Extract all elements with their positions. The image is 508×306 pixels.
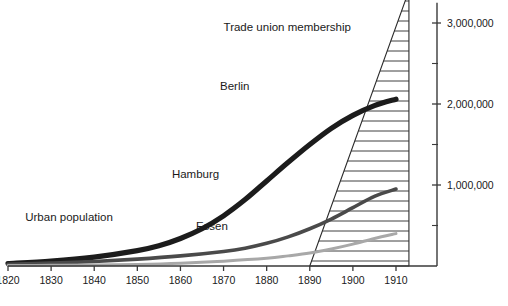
x-tick-label: 1910: [384, 274, 408, 286]
x-tick-label: 1850: [126, 274, 150, 286]
label-essen: Essen: [196, 220, 228, 232]
trade-union-and-urban-population-chart: 1820183018401850186018701880189019001910…: [0, 0, 508, 306]
label-hamburg: Hamburg: [172, 168, 219, 180]
chart-container: 1820183018401850186018701880189019001910…: [0, 0, 508, 306]
y-tick-label: 1,000,000: [447, 179, 494, 191]
x-tick-label: 1880: [255, 274, 279, 286]
y-tick-label: 3,000,000: [447, 17, 494, 29]
x-tick-label: 1860: [169, 274, 193, 286]
label-urban-population: Urban population: [25, 211, 113, 223]
x-tick-label: 1890: [298, 274, 322, 286]
label-trade-union-membership: Trade union membership: [224, 21, 351, 33]
x-tick-label: 1830: [39, 274, 63, 286]
y-tick-label: 2,000,000: [447, 98, 494, 110]
x-tick-label: 1870: [212, 274, 236, 286]
label-berlin: Berlin: [220, 80, 249, 92]
x-tick-label: 1820: [0, 274, 20, 286]
x-tick-label: 1900: [341, 274, 365, 286]
x-tick-label: 1840: [83, 274, 107, 286]
